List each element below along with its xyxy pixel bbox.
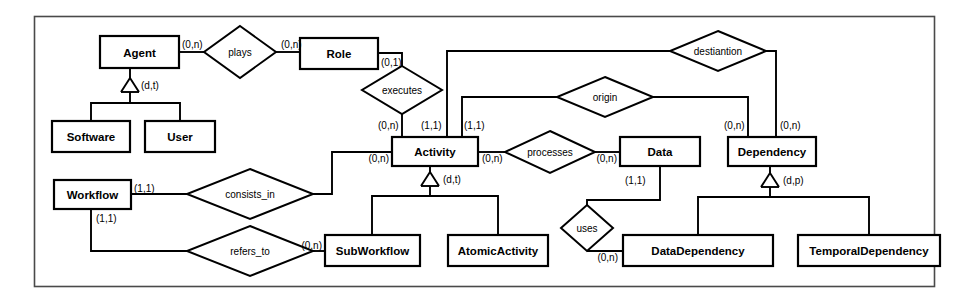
cardinality-role-executes: (0,1) bbox=[381, 57, 402, 68]
entity-activity[interactable]: Activity bbox=[392, 137, 478, 166]
relationship-label-origin: origin bbox=[593, 92, 617, 103]
cardinality-workflow-refers: (1,1) bbox=[96, 213, 117, 224]
cardinality-plays-role: (0,n) bbox=[281, 39, 302, 50]
cardinality-processes-data: (0,n) bbox=[596, 153, 617, 164]
cardinality-uses-datadep: (0,n) bbox=[597, 252, 618, 263]
entity-label-activity: Activity bbox=[414, 146, 456, 158]
relationship-label-refers-to: refers_to bbox=[230, 246, 270, 257]
entity-agent[interactable]: Agent bbox=[100, 36, 179, 68]
cardinality-data-uses: (1,1) bbox=[625, 175, 646, 186]
entity-label-subworkflow: SubWorkflow bbox=[336, 245, 409, 257]
entity-subworkflow[interactable]: SubWorkflow bbox=[325, 235, 420, 266]
line-activity-atomicactivity bbox=[430, 196, 498, 235]
entity-label-software: Software bbox=[67, 131, 116, 143]
entity-data[interactable]: Data bbox=[620, 137, 700, 166]
line-agent-user bbox=[130, 103, 180, 121]
cardinality-refers-subworkflow: (0,n) bbox=[301, 240, 322, 251]
er-diagram-canvas: plays executes destiantion origin proces… bbox=[0, 0, 966, 302]
relationship-label-destiantion: destiantion bbox=[694, 46, 742, 57]
relationship-label-executes: executes bbox=[382, 85, 422, 96]
cardinality-workflow-consists: (1,1) bbox=[134, 183, 155, 194]
cardinality-activity-processes: (0,n) bbox=[482, 153, 503, 164]
line-origin-dependency bbox=[653, 97, 748, 137]
entity-temporaldependency[interactable]: TemporalDependency bbox=[798, 235, 940, 266]
entity-label-data: Data bbox=[648, 146, 674, 158]
isa-label-dependency: (d,p) bbox=[783, 175, 804, 186]
isa-triangle-activity bbox=[421, 172, 439, 186]
cardinality-executes-activity: (0,n) bbox=[378, 120, 399, 131]
cardinality-agent-plays: (0,n) bbox=[182, 39, 203, 50]
relationship-consists-in[interactable]: consists_in bbox=[187, 169, 313, 219]
entity-label-dependency: Dependency bbox=[738, 146, 807, 158]
entity-software[interactable]: Software bbox=[52, 121, 130, 152]
relationship-label-processes: processes bbox=[527, 147, 573, 158]
entity-role[interactable]: Role bbox=[300, 38, 378, 69]
entity-boxes: Agent Role Software User Activity Data bbox=[52, 36, 940, 266]
relationship-label-plays: plays bbox=[228, 47, 251, 58]
isa-triangle-agent bbox=[121, 78, 139, 92]
line-data-uses bbox=[587, 166, 660, 205]
cardinality-activity-origin: (1,1) bbox=[464, 120, 485, 131]
isa-labels: (d,t) (d,t) (d,p) bbox=[141, 80, 804, 186]
relationship-processes[interactable]: processes bbox=[505, 131, 595, 173]
er-diagram-svg: plays executes destiantion origin proces… bbox=[0, 0, 966, 302]
isa-triangle-dependency bbox=[761, 173, 779, 187]
entity-label-agent: Agent bbox=[123, 47, 156, 59]
relationship-destiantion[interactable]: destiantion bbox=[670, 31, 766, 71]
relationship-label-consists-in: consists_in bbox=[225, 189, 274, 200]
relationship-label-uses: uses bbox=[576, 223, 597, 234]
relationship-uses[interactable]: uses bbox=[561, 205, 613, 251]
entity-label-temporaldependency: TemporalDependency bbox=[809, 245, 929, 257]
entity-dependency[interactable]: Dependency bbox=[728, 137, 816, 166]
relationship-plays[interactable]: plays bbox=[204, 26, 276, 78]
line-activity-subworkflow bbox=[372, 186, 430, 235]
line-dependency-temporaldependency bbox=[770, 197, 869, 235]
entity-label-datadependency: DataDependency bbox=[651, 245, 745, 257]
relationship-refers-to[interactable]: refers_to bbox=[187, 226, 313, 276]
cardinality-activity-destination: (1,1) bbox=[421, 120, 442, 131]
entity-label-workflow: Workflow bbox=[67, 189, 119, 201]
line-activity-origin bbox=[462, 97, 557, 137]
entity-datadependency[interactable]: DataDependency bbox=[623, 235, 773, 266]
line-dependency-datadependency bbox=[698, 187, 770, 235]
line-agent-software bbox=[91, 92, 130, 121]
entity-label-role: Role bbox=[327, 48, 352, 60]
relationship-executes[interactable]: executes bbox=[362, 66, 442, 114]
cardinality-dependency-origin: (0,n) bbox=[724, 120, 745, 131]
isa-label-activity: (d,t) bbox=[443, 174, 461, 185]
relationship-origin[interactable]: origin bbox=[557, 77, 653, 117]
entity-workflow[interactable]: Workflow bbox=[54, 180, 131, 209]
entity-label-atomicactivity: AtomicActivity bbox=[458, 245, 539, 257]
isa-label-agent: (d,t) bbox=[141, 80, 159, 91]
entity-atomicactivity[interactable]: AtomicActivity bbox=[448, 235, 548, 266]
entity-user[interactable]: User bbox=[145, 121, 215, 152]
cardinality-activity-consists: (0,n) bbox=[368, 153, 389, 164]
entity-label-user: User bbox=[167, 131, 193, 143]
line-destination-dependency bbox=[766, 51, 776, 137]
cardinality-dependency-dest: (0,n) bbox=[780, 120, 801, 131]
